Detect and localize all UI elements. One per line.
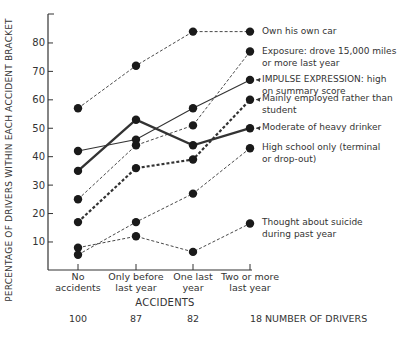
data-point — [246, 27, 254, 35]
series-line — [78, 32, 250, 109]
data-point — [246, 96, 254, 104]
data-point — [246, 124, 254, 132]
series-line — [78, 224, 250, 252]
legend-label: Thought about suicide — [261, 217, 363, 227]
data-point — [246, 47, 254, 55]
axes — [48, 14, 252, 270]
legend-label: Mainly employed rather than — [262, 93, 393, 103]
x-tick-label: Only before — [108, 271, 164, 282]
y-ticks: 1020304050607080 — [32, 37, 53, 247]
legend-label: student — [262, 105, 297, 115]
x-tick-label: No — [72, 271, 85, 282]
series-line — [78, 52, 250, 200]
y-axis-title: PERCENTAGE OF DRIVERS WITHIN EACH ACCIDE… — [4, 18, 14, 302]
data-point — [132, 164, 140, 172]
driver-counts: 100878218NUMBER OF DRIVERS — [69, 313, 367, 324]
x-ticks: NoaccidentsOnly beforelast yearOne lasty… — [55, 264, 279, 293]
arrow-head-icon — [256, 78, 260, 82]
driver-count-value: 82 — [187, 313, 199, 324]
driver-count-value: 87 — [130, 313, 142, 324]
series-6 — [74, 219, 254, 256]
chart: 1020304050607080 NoaccidentsOnly beforel… — [0, 0, 401, 341]
x-axis-title: ACCIDENTS — [135, 297, 194, 308]
x-tick-label: last year — [229, 282, 270, 293]
y-tick-label: 20 — [32, 208, 45, 219]
data-point — [132, 135, 140, 143]
data-point — [189, 189, 197, 197]
legend-label: Moderate of heavy drinker — [262, 122, 382, 132]
y-tick-label: 80 — [32, 37, 45, 48]
driver-count-value: 100 — [69, 313, 87, 324]
legend-label: Own his own car — [262, 26, 337, 36]
data-point — [74, 218, 82, 226]
driver-count-label: NUMBER OF DRIVERS — [265, 313, 367, 324]
legend-label: during past year — [262, 229, 337, 239]
series-line — [78, 80, 250, 151]
x-tick-label: accidents — [55, 282, 101, 293]
series-3 — [74, 96, 254, 227]
data-point — [132, 218, 140, 226]
legend-label: High school only (terminal — [262, 142, 380, 152]
y-tick-label: 30 — [32, 180, 45, 191]
data-point — [246, 76, 254, 84]
driver-count-value: 18 — [250, 313, 262, 324]
series-line — [78, 100, 250, 222]
series-group — [74, 27, 254, 259]
x-tick-label: Two or more — [220, 271, 279, 282]
arrow-head-icon — [256, 126, 260, 130]
data-point — [74, 147, 82, 155]
data-point — [189, 27, 197, 35]
y-tick-label: 40 — [32, 151, 45, 162]
series-2 — [74, 76, 254, 155]
data-point — [246, 219, 254, 227]
x-tick-label: year — [182, 282, 203, 293]
x-tick-label: last year — [115, 282, 156, 293]
x-tick-label: One last — [173, 271, 213, 282]
data-point — [132, 61, 140, 69]
data-point — [189, 104, 197, 112]
y-tick-label: 50 — [32, 123, 45, 134]
data-point — [132, 116, 140, 124]
legend-label: IMPULSE EXPRESSION: high — [262, 74, 386, 84]
y-tick-label: 70 — [32, 66, 45, 77]
legend-label: or more last year — [262, 58, 340, 68]
data-point — [74, 167, 82, 175]
legend-label: or drop-out) — [262, 154, 316, 164]
data-point — [189, 248, 197, 256]
series-0 — [74, 27, 254, 112]
y-tick-label: 10 — [32, 236, 45, 247]
legend-label: Exposure: drove 15,000 miles — [262, 46, 397, 56]
data-point — [74, 104, 82, 112]
series-1 — [74, 47, 254, 203]
data-point — [74, 244, 82, 252]
y-tick-label: 60 — [32, 94, 45, 105]
legend: Own his own carExposure: drove 15,000 mi… — [256, 26, 397, 239]
data-point — [132, 232, 140, 240]
data-point — [189, 141, 197, 149]
data-point — [74, 195, 82, 203]
data-point — [189, 155, 197, 163]
data-point — [246, 144, 254, 152]
arrow-head-icon — [256, 98, 260, 102]
data-point — [189, 121, 197, 129]
